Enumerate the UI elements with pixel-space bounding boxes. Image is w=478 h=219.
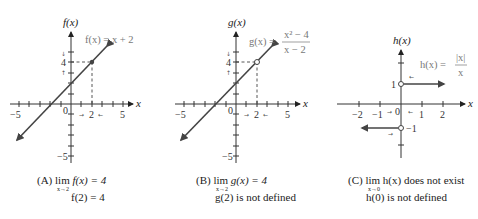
tick-label: −5: [57, 151, 68, 162]
graph-a: −5 0 2 5 4 −5 → ← ↓ ↑ f(x) x f(x) = x + …: [10, 16, 141, 163]
tick-label: 2: [440, 109, 445, 120]
graph-b: −5 0 2 5 4 −5 → ← ↓ ↑ g(x) x g(x) = x² −…: [175, 16, 310, 163]
function-label: f(x) = x + 2: [85, 34, 134, 46]
tick-label: 5: [285, 109, 290, 120]
lim-text: lim: [55, 174, 70, 186]
x-axis-label: x: [467, 97, 473, 109]
tick-label: −1: [372, 109, 383, 120]
y-axis-label: h(x): [393, 34, 411, 47]
function-label: g(x) = x² − 4 x − 2: [249, 29, 310, 55]
tick-label: −2: [352, 109, 363, 120]
approach-left-arrow: ←: [263, 111, 268, 118]
approach-left-arrow: ←: [408, 108, 413, 115]
caption-label: (C): [348, 174, 363, 186]
caption-a-line2: f(2) = 4: [71, 191, 105, 203]
svg-text:g(x) =: g(x) =: [249, 36, 275, 48]
approach-down-arrow: ↓: [61, 50, 66, 57]
open-point-upper: [399, 82, 404, 87]
x-axis-label: x: [302, 97, 308, 109]
caption-b: (B) lim g(x) = 4 x→2: [196, 174, 267, 186]
tick-label: −5: [222, 151, 233, 162]
y-axis-label: f(x): [63, 16, 79, 29]
caption-label: (A): [37, 174, 52, 186]
lim-expression: f(x) = 4: [70, 174, 106, 186]
approach-down-arrow: ↓: [226, 50, 231, 57]
approach-right-arrow: →: [79, 111, 84, 118]
caption-a: (A) lim f(x) = 4 x→2: [37, 174, 106, 186]
approach-left-arrow: ←: [98, 111, 103, 118]
caption-b-line2: g(2) is not defined: [215, 191, 296, 203]
tick-label: −5: [10, 109, 21, 120]
tick-label: −1: [406, 123, 417, 134]
tick-label: 2: [254, 109, 259, 120]
svg-text:x: x: [458, 67, 464, 78]
svg-text:|x|: |x|: [456, 52, 465, 63]
function-label: h(x) = |x| x: [420, 52, 467, 78]
caption-c-line2: h(0) is not defined: [366, 191, 447, 203]
graph-c: −2 −1 0 1 2 1 −1 → ← ← → h(x) x h(x) = |…: [337, 34, 473, 158]
tick-label: 2: [89, 109, 94, 120]
approach-up-arrow: ↑: [61, 69, 66, 76]
tick-label: 0: [63, 105, 68, 116]
svg-text:x² − 4: x² − 4: [284, 29, 310, 40]
tick-label: 1: [391, 79, 396, 90]
approach-right-arrow: →: [387, 108, 392, 115]
lim-expression: h(x) does not exist: [380, 174, 464, 186]
svg-text:x − 2: x − 2: [284, 44, 306, 55]
svg-text:h(x) =: h(x) =: [420, 59, 446, 71]
filled-point: [90, 60, 94, 64]
limits-figure: −5 0 2 5 4 −5 → ← ↓ ↑ f(x) x f(x) = x + …: [0, 0, 478, 219]
lim-text: lim: [213, 174, 228, 186]
tick-label: 0: [395, 106, 400, 117]
approach-right-arrow: →: [388, 130, 393, 137]
tick-label: 4: [61, 57, 66, 68]
open-point: [255, 60, 260, 65]
tick-label: 1: [419, 109, 424, 120]
tick-label: 0: [228, 105, 233, 116]
caption-label: (B): [196, 174, 211, 186]
approach-up-arrow: ↑: [226, 69, 231, 76]
open-point-lower: [399, 126, 404, 131]
tick-label: −5: [175, 109, 186, 120]
approach-right-arrow: →: [244, 111, 249, 118]
x-axis-label: x: [135, 97, 141, 109]
y-axis-label: g(x): [228, 16, 246, 29]
tick-label: 5: [120, 109, 125, 120]
lim-expression: g(x) = 4: [228, 174, 267, 186]
tick-label: 4: [226, 57, 231, 68]
lim-subscript: x→2: [57, 186, 69, 192]
caption-c: (C) lim h(x) does not exist x→0: [348, 174, 464, 186]
lim-text: lim: [365, 174, 380, 186]
approach-left-arrow: ←: [409, 73, 414, 80]
